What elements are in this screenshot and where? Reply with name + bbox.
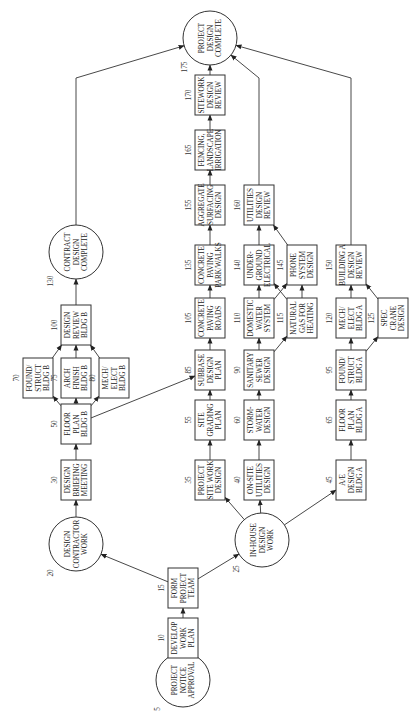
node-label-line: CONTRACTOR (73, 520, 81, 569)
node-label-line: ARCH (64, 368, 72, 388)
node-100: 100DESIGNREVIEWBLDG B (51, 305, 91, 345)
node-90: 90SANITARYSEWERDESIGN (234, 350, 274, 390)
node-label-line: PAVING (207, 252, 215, 278)
node-label-line: AGGREGATE (198, 183, 206, 227)
node-135: 135CONCRETEPAVINGPARK/WALKS (185, 242, 225, 287)
edge-95-to-125 (366, 337, 378, 352)
node-number: 45 (326, 476, 334, 484)
node-label-line: FINISH (73, 366, 81, 389)
node-175: 175PROJECTDESIGNCOMPLETE (181, 11, 237, 72)
node-140: 140UNDER-GROUNDELECTRICAL (234, 243, 274, 287)
node-45: 45A/EDESIGNBLDG A (326, 460, 366, 500)
node-label-line: ELECT (348, 306, 356, 329)
node-label-line: FOUND/ (26, 365, 34, 392)
node-label-line: PROJECT (198, 464, 206, 495)
node-number: 35 (185, 476, 193, 484)
node-label-line: DESIGN (215, 191, 223, 218)
node-115: 115NATURALGAS FORHEATING (277, 298, 317, 338)
node-label-line: REVIEW (264, 191, 272, 219)
node-label-line: FENCING, (198, 133, 206, 166)
node-number: 25 (233, 565, 241, 573)
node-number: 40 (234, 476, 242, 484)
node-number: 55 (185, 416, 193, 424)
node-label-line: STRUCT (35, 364, 43, 392)
node-125: 125SPECCRANEDESIGN (368, 298, 408, 338)
node-label-line: REVIEW (73, 311, 81, 339)
node-number: 10 (158, 634, 166, 642)
edge-25-to-45 (284, 490, 336, 525)
node-label-line: DESIGN (64, 530, 72, 557)
node-80: 80MECH/ELECTBLDG B (89, 358, 129, 398)
node-55: 55SITEGRADINGPLAN (185, 400, 225, 440)
node-label-line: MEETING (81, 464, 89, 496)
node-label-line: PROJECT (171, 664, 179, 695)
node-label-line: BUILDING A (339, 244, 347, 286)
node-number: 130 (47, 275, 55, 286)
node-number: 175 (181, 61, 189, 72)
edge-25-to-35 (225, 497, 244, 519)
node-label-line: MECH/ (339, 307, 347, 330)
node-number: 70 (13, 374, 21, 382)
node-label-line: DESIGN (64, 466, 72, 493)
node-number: 150 (326, 259, 334, 270)
node-label-line: HEATING (307, 302, 315, 333)
node-number: 15 (158, 584, 166, 592)
edge-50-to-80 (91, 396, 99, 406)
node-label-line: DESIGN (215, 466, 223, 493)
edge-25-to-40 (260, 500, 261, 513)
edge-70-to-100 (52, 345, 61, 358)
edge-50-to-70 (53, 396, 61, 406)
node-145: 145PHONESYSTEMDESIGN (277, 245, 317, 285)
node-number: 75 (51, 374, 59, 382)
node-label-line: TEAM (188, 577, 196, 598)
node-label-line: SUBBASE (198, 353, 206, 386)
node-35: 35PROJECTSITE WORKDESIGN (185, 460, 225, 500)
node-label-line: IN-HOUSE (250, 522, 258, 557)
node-label-line: BLDG B (43, 365, 51, 391)
node-number: 170 (185, 89, 193, 100)
node-label-line: PLAN (188, 628, 196, 648)
node-number: 145 (277, 259, 285, 270)
node-number: 30 (51, 476, 59, 484)
node-120: 120MECH/ELECTBLDG A (326, 298, 366, 338)
edge-125-to-150 (366, 284, 378, 299)
node-label-line: DESIGN (64, 311, 72, 338)
node-label-line: STRUCT (348, 356, 356, 384)
edge-15-to-20 (101, 554, 168, 582)
node-label-line: MECH/ (102, 367, 110, 390)
node-20: 20DESIGNCONTRACTORWORK (47, 517, 103, 577)
node-label-line: PLAN (348, 410, 356, 430)
node-label-line: GAS FOR (299, 303, 307, 333)
node-label-line: WORK (180, 626, 188, 649)
node-number: 155 (185, 199, 193, 210)
node-label-line: SYSTEM (264, 303, 272, 332)
node-label-line: BLDG A (356, 304, 364, 331)
node-label-line: SEWER (256, 358, 264, 383)
node-label-line: FLOOR (64, 412, 72, 436)
edge-160-to-175 (231, 55, 259, 185)
node-label-line: PAVING (207, 305, 215, 331)
node-number: 160 (234, 199, 242, 210)
node-160: 160UTILITIESDESIGNREVIEW (234, 185, 274, 225)
node-label-line: FLOOR (339, 408, 347, 432)
node-170: 170SITEWORKDESIGNREVIEW (185, 75, 225, 115)
node-label-line: SANITARY (247, 352, 255, 388)
node-number: 80 (89, 374, 97, 382)
node-label-line: DESIGN (348, 466, 356, 493)
node-label-line: A/E (339, 474, 347, 486)
node-label-line: UNDER- (247, 251, 255, 279)
node-label-line: STORM- (247, 406, 255, 434)
node-label-line: FOUND/ (339, 357, 347, 384)
node-label-line: DESIGN (264, 466, 272, 493)
node-165: 165FENCING,LANDSCAPEIRRIGATION (185, 128, 225, 171)
node-number: 5 (154, 707, 162, 711)
node-number: 110 (234, 312, 242, 323)
node-number: 65 (326, 416, 334, 424)
node-label-line: DEVELOP (171, 622, 179, 655)
node-number: 165 (185, 144, 193, 155)
node-label-line: DESIGN (307, 251, 315, 278)
node-15: 15FORMPROJECTTEAM (158, 568, 198, 608)
node-label-line: PHONE (290, 252, 298, 277)
node-number: 60 (234, 416, 242, 424)
node-label-line: WATER (256, 408, 264, 432)
